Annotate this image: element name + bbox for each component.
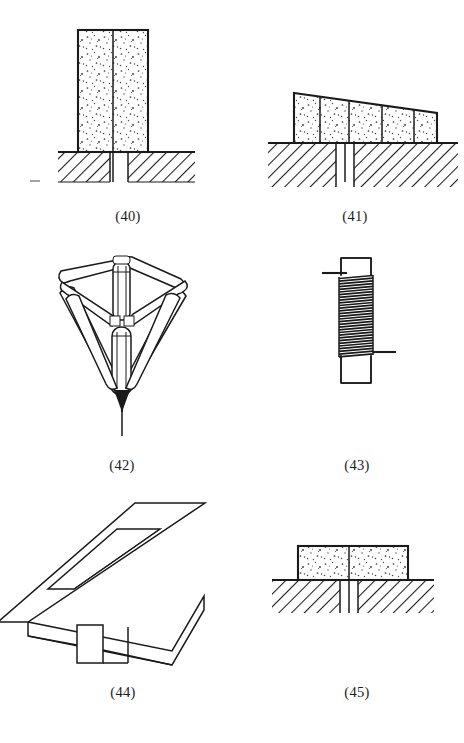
figure-caption-42: (42)	[109, 458, 134, 473]
fig42-tip	[114, 390, 130, 412]
fig42-front-legs	[66, 294, 180, 390]
fig41-base-hatch	[268, 143, 458, 187]
figure-45-drawing	[272, 546, 434, 613]
figure-caption-43: (43)	[344, 458, 369, 473]
fig40-base-hatch	[58, 152, 195, 182]
figure-caption-41: (41)	[342, 209, 367, 224]
figure-40-drawing	[30, 30, 195, 182]
figure-sheet: (40) (41) (42) (43) (44) (45)	[0, 0, 464, 743]
figure-sheet-drawing	[0, 0, 464, 743]
fig45-base-hatch	[272, 580, 434, 613]
fig44-fin	[77, 625, 128, 663]
fig44-slot	[48, 529, 160, 589]
figure-44-drawing	[0, 503, 205, 665]
figure-41-drawing	[268, 93, 458, 187]
fig40-stipple-block	[78, 30, 148, 152]
fig45-stipple-block	[298, 546, 408, 580]
fig42-rear-legs	[60, 287, 186, 395]
figure-42-drawing	[59, 256, 187, 436]
fig43-rod-body	[341, 258, 371, 383]
figure-caption-45: (45)	[344, 685, 369, 700]
fig42-joints	[110, 256, 134, 326]
fig42-center-cylinder-lower	[112, 327, 131, 393]
figure-caption-40: (40)	[115, 209, 140, 224]
fig43-rod-outline	[341, 258, 371, 383]
fig41-wedge-block	[294, 93, 437, 143]
fig42-center-cylinder-upper	[113, 262, 130, 320]
figure-caption-44: (44)	[110, 685, 135, 700]
fig42-top-frame	[59, 257, 187, 326]
fig44-plate-top-face	[0, 503, 205, 622]
fig43-coil-winding	[339, 275, 373, 357]
fig41-divider-lines	[320, 97, 414, 143]
figure-43-drawing	[322, 258, 396, 383]
fig44-plate-thickness	[28, 596, 204, 665]
